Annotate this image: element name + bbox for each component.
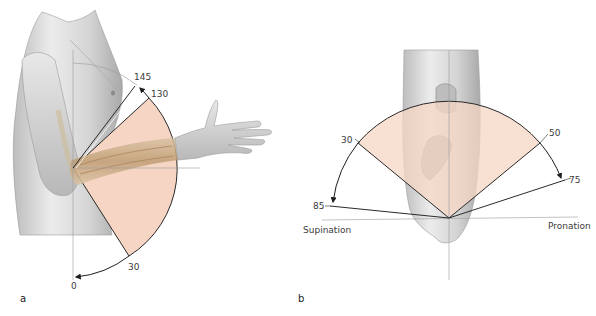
angle-label-pronation-50: 50 — [549, 128, 561, 138]
figure-canvas: 145 130 30 0 a 30 85 50 75 Supination — [0, 0, 596, 316]
flexion-arrow-arc — [140, 88, 149, 98]
hand-illustration — [175, 100, 271, 160]
angle-label-145: 145 — [134, 72, 151, 82]
angle-label-30: 30 — [128, 262, 140, 272]
pronation-label: Pronation — [548, 221, 591, 231]
angle-label-130: 130 — [151, 89, 168, 99]
panel-label-a: a — [20, 293, 26, 304]
supination-arrow-arc — [333, 143, 358, 202]
pronation-arrow-arc — [540, 143, 561, 178]
extension-arrow-arc — [76, 256, 129, 277]
angle-label-supination-30: 30 — [341, 135, 353, 145]
supination-label: Supination — [303, 225, 351, 235]
leader-50 — [540, 134, 548, 143]
panel-a: 145 130 30 0 a — [13, 10, 271, 304]
angle-label-supination-85: 85 — [313, 201, 324, 211]
angle-label-0: 0 — [71, 281, 77, 291]
nipple — [111, 91, 115, 96]
angle-label-pronation-75: 75 — [569, 175, 580, 185]
panel-label-b: b — [298, 293, 304, 304]
panel-b: 30 85 50 75 Supination Pronation b — [298, 50, 591, 304]
